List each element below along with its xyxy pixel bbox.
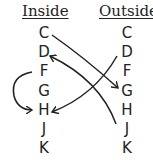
arrow-f-to-h [13, 72, 32, 110]
arrow-d-to-h [52, 56, 117, 112]
arrows-layer [0, 0, 153, 160]
arrow-j-to-d [50, 56, 116, 124]
